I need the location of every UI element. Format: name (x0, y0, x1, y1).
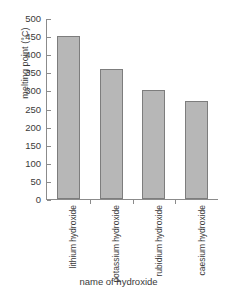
y-axis-tick-label: 450 (25, 31, 41, 42)
x-axis-category-labels: lithiumhydroxidepotassiumhydroxiderubidi… (46, 205, 218, 267)
category-slot: caesiumhydroxide (175, 205, 218, 267)
category-label-line: hydroxide (197, 205, 207, 242)
bar[interactable] (57, 36, 80, 199)
bar[interactable] (185, 101, 208, 199)
bar[interactable] (142, 90, 165, 199)
category-label: caesiumhydroxide (197, 205, 207, 276)
y-axis-tick-label: 250 (25, 104, 41, 115)
y-axis-tick-label: 350 (25, 67, 41, 78)
x-axis-title: name of hydroxide (0, 276, 237, 287)
bars-layer (47, 19, 218, 199)
category-slot: rubidiumhydroxide (132, 205, 175, 267)
y-axis-tick-label: 50 (30, 176, 41, 187)
y-axis-tick-mark (47, 200, 51, 201)
bar-slot (133, 19, 176, 199)
x-axis-tick-mark (133, 199, 134, 204)
plot-area: 500450400350300250200150100500 (46, 19, 218, 200)
x-axis-tick-mark (90, 199, 91, 204)
y-axis-tick-label: 200 (25, 122, 41, 133)
category-label: rubidiumhydroxide (154, 205, 164, 276)
y-axis-tick-label: 500 (25, 13, 41, 24)
y-axis-tick-label: 300 (25, 85, 41, 96)
category-label: lithiumhydroxide (68, 205, 78, 268)
bar[interactable] (100, 69, 123, 199)
y-axis-tick-label: 150 (25, 140, 41, 151)
bar-slot (90, 19, 133, 199)
category-label-line: lithium (68, 244, 78, 269)
category-label-line: hydroxide (154, 205, 164, 242)
category-label-line: hydroxide (111, 205, 121, 242)
category-slot: potassiumhydroxide (89, 205, 132, 267)
bar-slot (175, 19, 218, 199)
category-slot: lithiumhydroxide (46, 205, 89, 267)
category-label-line: hydroxide (68, 205, 78, 242)
bar-chart: melting point (°C) 500450400350300250200… (0, 0, 237, 298)
bar-slot (47, 19, 90, 199)
y-axis-tick-label: 100 (25, 158, 41, 169)
y-axis-tick-label: 0 (36, 194, 41, 205)
y-axis-tick-label: 400 (25, 49, 41, 60)
category-label-line: caesium (197, 244, 207, 276)
category-label: potassiumhydroxide (111, 205, 121, 283)
x-axis-tick-mark (175, 199, 176, 204)
category-label-line: rubidium (154, 244, 164, 277)
